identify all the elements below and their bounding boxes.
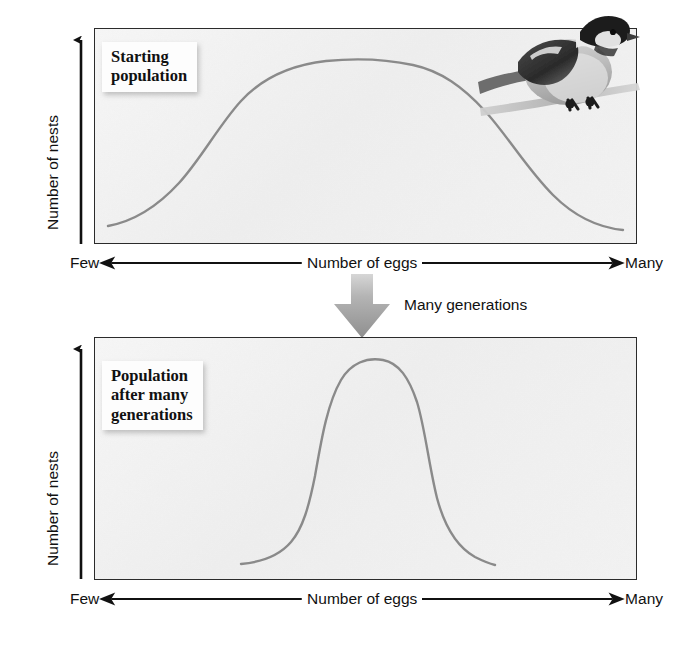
y-axis-label-top: Number of nests bbox=[44, 115, 62, 230]
x-axis-bottom: Few Number of eggs Many bbox=[70, 586, 663, 612]
x-axis-label-bottom: Number of eggs bbox=[302, 590, 422, 608]
x-axis-left-arrow-top bbox=[99, 255, 302, 271]
callout-population-after-many-generations: Population after many generations bbox=[102, 361, 203, 430]
x-axis-right-arrow-top bbox=[422, 255, 625, 271]
x-axis-right-end-top: Many bbox=[625, 254, 663, 272]
x-axis-right-arrow-bottom bbox=[422, 591, 625, 607]
y-axis-arrow-top bbox=[72, 30, 92, 244]
y-axis-arrow-bottom bbox=[72, 339, 92, 579]
y-axis-label-bottom: Number of nests bbox=[44, 451, 62, 566]
x-axis-label-top: Number of eggs bbox=[302, 254, 422, 272]
x-axis-top: Few Number of eggs Many bbox=[70, 250, 663, 276]
x-axis-right-end-bottom: Many bbox=[625, 590, 663, 608]
transition-label: Many generations bbox=[404, 296, 527, 314]
transition-arrow-down-icon bbox=[322, 274, 402, 340]
x-axis-left-arrow-bottom bbox=[99, 591, 302, 607]
callout-starting-population: Starting population bbox=[102, 42, 197, 92]
x-axis-left-end-bottom: Few bbox=[70, 590, 99, 608]
x-axis-left-end-top: Few bbox=[70, 254, 99, 272]
stabilizing-selection-figure: Number of nests Starting population bbox=[0, 0, 673, 645]
